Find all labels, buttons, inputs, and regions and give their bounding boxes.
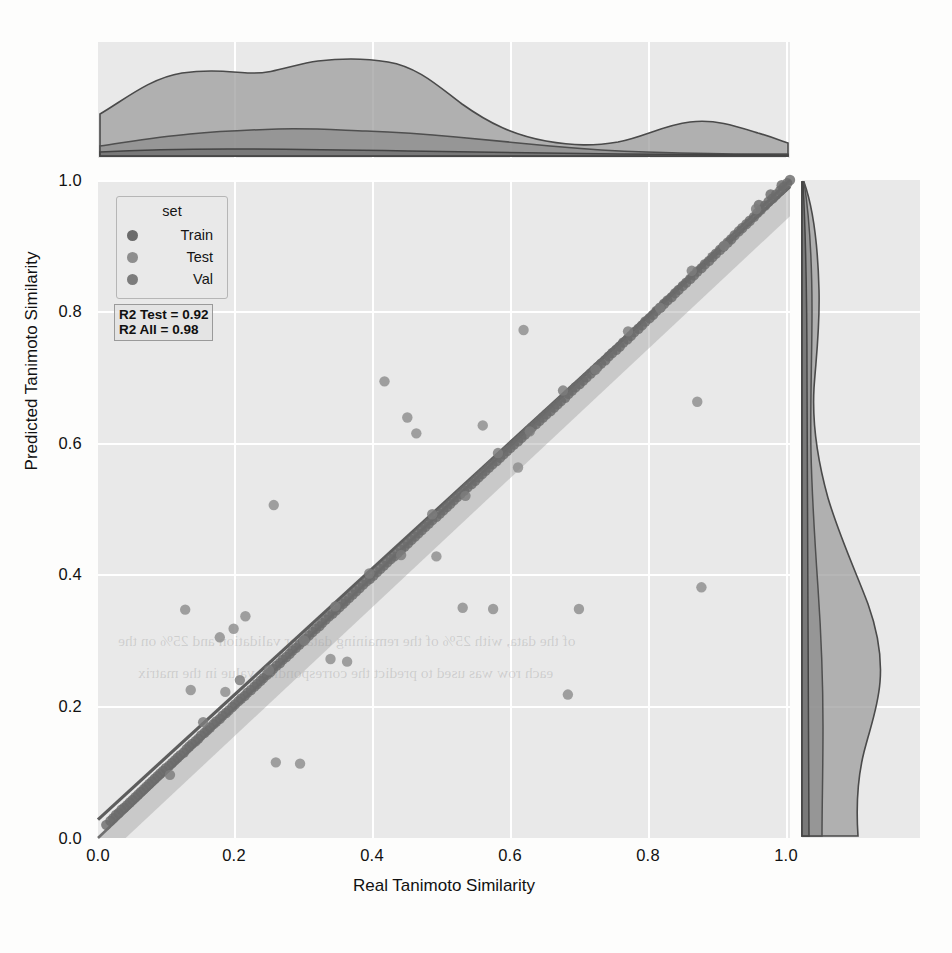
data-point bbox=[299, 635, 309, 645]
data-point bbox=[692, 397, 702, 407]
xtick-2: 0.4 bbox=[360, 846, 384, 865]
data-point bbox=[235, 675, 245, 685]
data-point bbox=[220, 687, 230, 697]
data-point bbox=[776, 180, 786, 190]
data-point bbox=[719, 241, 729, 251]
legend-item-train[interactable]: Train bbox=[125, 224, 219, 246]
data-point bbox=[165, 770, 175, 780]
data-point bbox=[431, 551, 441, 561]
data-point bbox=[198, 717, 208, 727]
data-point bbox=[574, 604, 584, 614]
xtick-4: 0.8 bbox=[636, 846, 660, 865]
legend-marker-test-icon bbox=[127, 252, 138, 263]
data-point bbox=[342, 656, 352, 666]
ytick-0: 0.0 bbox=[26, 829, 82, 848]
data-point bbox=[271, 757, 281, 767]
y-axis-title: Predicted Tanimoto Similarity bbox=[22, 32, 42, 690]
marginal-x-kde bbox=[98, 42, 790, 158]
data-point bbox=[379, 376, 389, 386]
data-point bbox=[563, 689, 573, 699]
data-point bbox=[513, 462, 523, 472]
r2-all-text: R2 All = 0.98 bbox=[119, 322, 208, 337]
marginal-x-axes bbox=[98, 42, 790, 158]
data-point bbox=[765, 189, 775, 199]
data-point bbox=[295, 758, 305, 768]
data-point bbox=[186, 685, 196, 695]
data-point bbox=[427, 509, 437, 519]
legend-marker-val-icon bbox=[127, 274, 138, 285]
x-axis-title: Real Tanimoto Similarity bbox=[98, 876, 790, 896]
xtick-1: 0.2 bbox=[222, 846, 246, 865]
data-point bbox=[558, 385, 568, 395]
data-point bbox=[411, 428, 421, 438]
data-point bbox=[364, 568, 374, 578]
data-point bbox=[751, 204, 761, 214]
legend-label-test: Test bbox=[186, 249, 213, 265]
legend-label-val: Val bbox=[193, 271, 213, 287]
xtick-5: 1.0 bbox=[774, 846, 798, 865]
r2-annotation-box: R2 Test = 0.92 R2 All = 0.98 bbox=[114, 304, 213, 341]
data-point bbox=[325, 654, 335, 664]
data-point bbox=[493, 448, 503, 458]
data-point bbox=[623, 326, 633, 336]
legend-label-train: Train bbox=[181, 227, 214, 243]
figure-canvas: of the data, with 25% of the remaining d… bbox=[0, 0, 952, 953]
data-point bbox=[402, 412, 412, 422]
data-point bbox=[488, 604, 498, 614]
marginal-y-kde bbox=[802, 180, 920, 838]
legend-item-test[interactable]: Test bbox=[125, 246, 219, 268]
data-point bbox=[228, 624, 238, 634]
legend-title: set bbox=[125, 203, 219, 219]
data-point bbox=[240, 611, 250, 621]
data-point bbox=[264, 665, 274, 675]
data-point bbox=[518, 325, 528, 335]
data-point bbox=[590, 364, 600, 374]
legend[interactable]: set Train Test Val bbox=[116, 196, 228, 299]
ytick-1: 0.2 bbox=[26, 697, 82, 716]
data-point bbox=[215, 632, 225, 642]
data-point bbox=[330, 601, 340, 611]
legend-item-val[interactable]: Val bbox=[125, 268, 219, 290]
data-point bbox=[269, 500, 279, 510]
marginal-y-axes bbox=[802, 180, 920, 838]
legend-marker-train-icon bbox=[127, 230, 138, 241]
data-point bbox=[655, 302, 665, 312]
data-point bbox=[687, 266, 697, 276]
data-point bbox=[478, 420, 488, 430]
data-point bbox=[396, 550, 406, 560]
data-point bbox=[696, 582, 706, 592]
data-point bbox=[457, 603, 467, 613]
data-point bbox=[525, 426, 535, 436]
xtick-3: 0.6 bbox=[498, 846, 522, 865]
data-point bbox=[180, 604, 190, 614]
data-point bbox=[460, 491, 470, 501]
xtick-0: 0.0 bbox=[86, 846, 110, 865]
r2-test-text: R2 Test = 0.92 bbox=[119, 307, 208, 322]
